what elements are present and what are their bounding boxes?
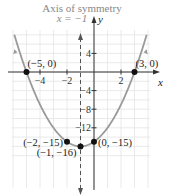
axes: xy [8,13,163,190]
svg-text:(−5, 0): (−5, 0) [28,58,57,70]
point-marker [132,69,138,75]
point-marker [78,143,84,149]
svg-text:−4: −4 [35,75,46,86]
svg-text:−12: −12 [75,122,91,133]
y-arrow-icon [92,16,97,23]
svg-text:−2: −2 [62,75,73,86]
svg-text:4: 4 [86,48,91,59]
svg-text:2: 2 [119,75,124,86]
svg-text:y: y [97,13,103,25]
x-arrow-icon [153,70,160,75]
svg-text:(0, −15): (0, −15) [98,137,132,149]
svg-text:(3, 0): (3, 0) [136,58,159,70]
point-marker [24,69,30,75]
svg-text:(−1, −16): (−1, −16) [37,147,77,159]
parabola-chart: xy (−5, 0)(3, 0)(−2, −15)(0, −15)(−1, −1… [0,0,175,196]
svg-text:x: x [157,76,163,88]
point-marker [91,139,97,145]
symmetry-equation: x = −1 [56,12,88,24]
point-marker [64,139,70,145]
svg-text:−4: −4 [80,85,91,96]
svg-text:−8: −8 [80,104,91,115]
